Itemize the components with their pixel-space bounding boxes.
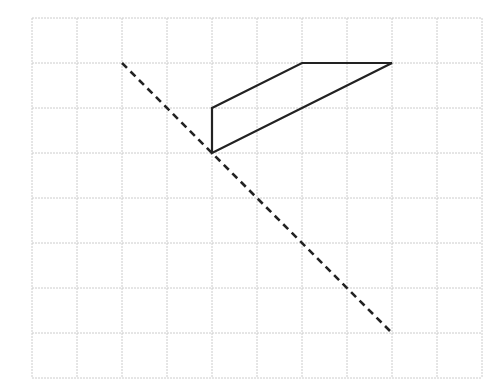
grid-lines [32,18,482,378]
grid-diagram [0,0,498,392]
